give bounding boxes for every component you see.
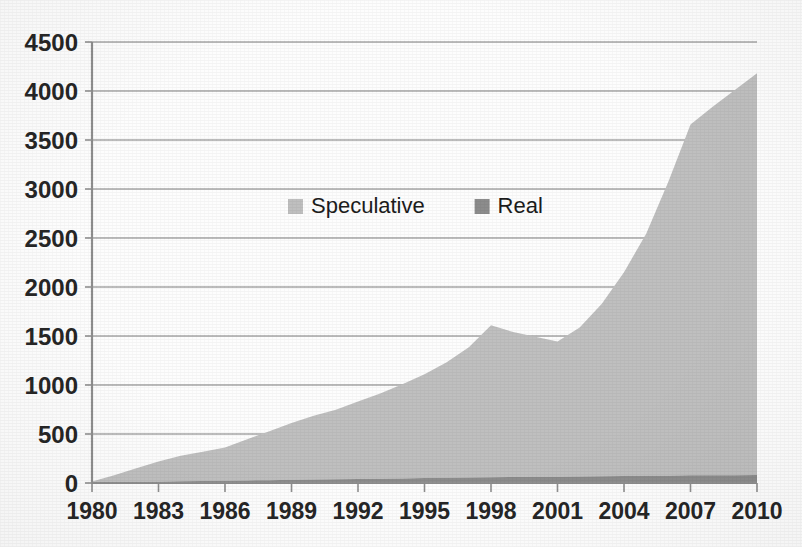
legend-label-speculative: Speculative xyxy=(311,193,425,218)
y-axis-tick-label: 1500 xyxy=(25,323,78,350)
x-axis-tick-label: 2010 xyxy=(731,498,782,524)
x-axis-tick-label: 1995 xyxy=(399,498,450,524)
legend-swatch-speculative xyxy=(288,199,303,214)
chart-canvas: 450040003500300025002000150010005000 198… xyxy=(0,0,802,547)
y-axis-tick-label: 1000 xyxy=(25,372,78,399)
y-axis-tick-label: 3000 xyxy=(25,176,78,203)
y-axis-tick-label: 0 xyxy=(65,470,78,497)
y-axis-tick-labels: 450040003500300025002000150010005000 xyxy=(25,29,78,497)
x-axis-tick-label: 1998 xyxy=(465,498,516,524)
y-axis-tick-label: 3500 xyxy=(25,127,78,154)
x-axis-tick-label: 1980 xyxy=(66,498,117,524)
legend-label-real: Real xyxy=(498,193,543,218)
x-axis-tick-label: 1986 xyxy=(199,498,250,524)
area-series-speculative xyxy=(92,73,757,482)
x-axis-tick-label: 1992 xyxy=(332,498,383,524)
x-axis-tick-label: 1983 xyxy=(133,498,184,524)
y-axis-tick-label: 4000 xyxy=(25,78,78,105)
x-axis-tick-label: 2007 xyxy=(665,498,716,524)
x-axis-tick-label: 2004 xyxy=(598,498,649,524)
x-axis-tick-labels: 1980198319861989199219951998200120042007… xyxy=(66,498,782,524)
y-axis-tick-label: 2000 xyxy=(25,274,78,301)
x-axis-tick-label: 2001 xyxy=(532,498,583,524)
area-series-group xyxy=(92,73,757,483)
legend-swatch-real xyxy=(475,199,490,214)
y-axis-tick-label: 4500 xyxy=(25,29,78,56)
x-axis-tick-label: 1989 xyxy=(266,498,317,524)
y-axis-tick-label: 500 xyxy=(38,421,78,448)
y-axis-tick-label: 2500 xyxy=(25,225,78,252)
area-chart: 450040003500300025002000150010005000 198… xyxy=(0,0,802,547)
chart-legend: SpeculativeReal xyxy=(288,193,543,218)
